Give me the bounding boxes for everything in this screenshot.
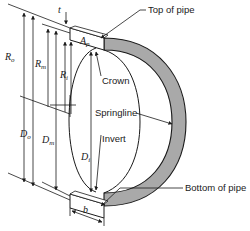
label-springline: Springline — [95, 107, 137, 118]
pipe-diagram: Top of pipe Crown Springline Invert Bott… — [0, 0, 250, 231]
symbol-b: b — [83, 204, 88, 215]
symbol-ro: Ro — [4, 51, 15, 64]
symbol-do: Do — [19, 128, 31, 141]
label-crown: Crown — [102, 75, 129, 86]
pipe-inner-curve-right — [104, 50, 140, 193]
label-invert: Invert — [102, 133, 126, 144]
symbol-ri: Ri — [59, 69, 68, 82]
symbol-di: Di — [80, 151, 90, 164]
symbol-dm: Dm — [41, 134, 54, 147]
symbol-t: t — [58, 4, 61, 15]
pipe-inner-curve — [69, 48, 96, 192]
symbol-rm: Rm — [34, 58, 46, 71]
label-bottom-of-pipe: Bottom of pipe — [185, 182, 246, 193]
label-top-of-pipe: Top of pipe — [148, 4, 194, 15]
pipe-wall — [104, 38, 186, 206]
